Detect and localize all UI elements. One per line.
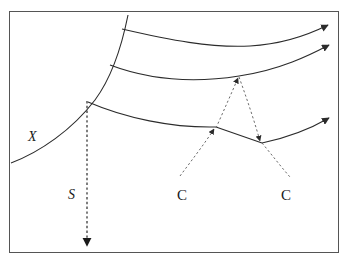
curve-characteristic-lower-left — [88, 102, 216, 127]
dashed-line-c-right — [262, 143, 290, 177]
label-x: X — [28, 130, 37, 144]
curve-characteristic-middle — [110, 45, 329, 80]
curve-characteristic-top — [122, 25, 328, 46]
diagram-svg — [0, 0, 349, 265]
dashed-line-c-apex-right — [239, 77, 260, 141]
figure-canvas: X S C C — [0, 0, 349, 265]
label-c-right: C — [281, 188, 291, 203]
label-c-left: C — [177, 188, 187, 203]
figure-border — [10, 12, 339, 253]
dashed-line-c-apex-left — [216, 78, 238, 128]
curve-characteristic-lower-middle — [216, 127, 262, 143]
dashed-line-c-left — [180, 129, 214, 176]
label-s: S — [68, 188, 75, 202]
curve-characteristic-lower-right — [262, 118, 329, 143]
